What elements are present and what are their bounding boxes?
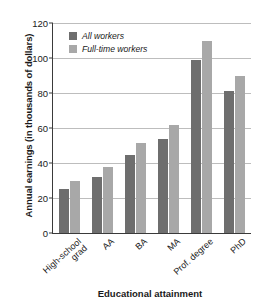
bar (103, 167, 113, 233)
y-tick-label: 60 (37, 123, 48, 134)
x-tick-label: BA (134, 237, 149, 252)
x-axis-title: Educational attainment (40, 288, 260, 299)
legend-swatch-icon (69, 32, 77, 40)
chart-legend: All workers Full-time workers (69, 31, 147, 57)
x-tick-label: AA (101, 237, 116, 252)
x-tick-label: High-school grad (41, 237, 89, 283)
y-tick-label: 80 (37, 88, 48, 99)
y-tick-label: 100 (32, 53, 48, 64)
bar (202, 41, 212, 233)
bar (59, 189, 69, 233)
legend-item-all-workers: All workers (69, 31, 147, 41)
bar (235, 76, 245, 234)
y-tick-label: 0 (43, 228, 48, 239)
plot-area: 020406080100120 High-school gradAABAMAPr… (52, 23, 251, 234)
x-tick-label: MA (165, 237, 181, 253)
bar (125, 155, 135, 233)
legend-swatch-icon (69, 45, 77, 53)
bar (169, 125, 179, 234)
y-tick-label: 40 (37, 158, 48, 169)
legend-item-full-time-workers: Full-time workers (69, 44, 147, 54)
legend-label: All workers (82, 31, 124, 41)
bar (158, 139, 168, 234)
bar (92, 177, 102, 233)
x-tick-label: PhD (228, 237, 247, 256)
y-tick-label: 120 (32, 18, 48, 29)
y-tick-label: 20 (37, 193, 48, 204)
legend-label: Full-time workers (82, 44, 147, 54)
bar-chart-figure: Annual earnings (in thousands of dollars… (0, 0, 266, 305)
bar (224, 91, 234, 233)
bar (191, 60, 201, 233)
bar (136, 143, 146, 233)
bar (70, 181, 80, 234)
